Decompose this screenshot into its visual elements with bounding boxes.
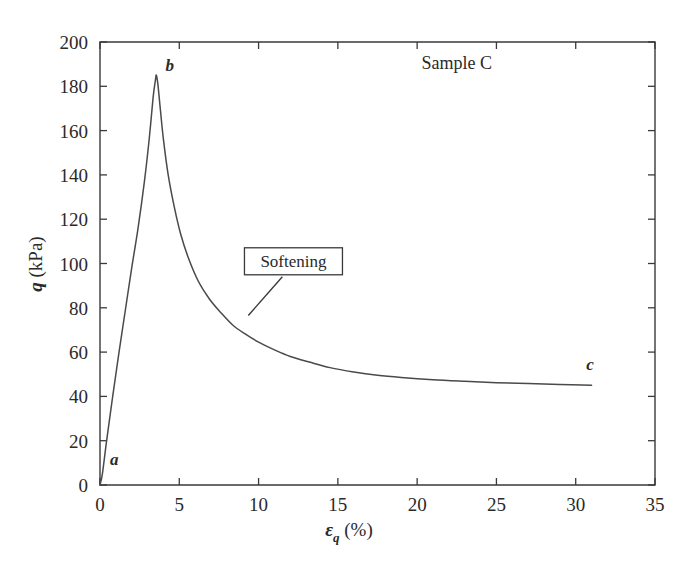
y-tick-label: 140 xyxy=(60,165,89,186)
y-tick-label: 20 xyxy=(69,431,88,452)
y-tick-label: 100 xyxy=(60,254,89,275)
y-tick-label: 160 xyxy=(60,121,89,142)
x-tick-label: 20 xyxy=(408,494,427,515)
x-axis-unit: (%) xyxy=(344,519,372,541)
y-axis-symbol: q xyxy=(25,282,46,292)
series-group xyxy=(100,75,592,485)
x-axis-symbol: ε xyxy=(325,519,333,540)
y-tick-label: 200 xyxy=(60,32,89,53)
x-axis-ticks xyxy=(100,42,655,485)
x-axis-title-text: εq (%) xyxy=(325,519,373,545)
x-tick-label: 35 xyxy=(646,494,665,515)
y-tick-label: 0 xyxy=(79,475,89,496)
sample-label: Sample C xyxy=(422,53,493,73)
y-axis-unit: (kPa) xyxy=(25,236,47,277)
x-tick-label: 25 xyxy=(487,494,506,515)
chart-svg: 05101520253035 0204060801001201401601802… xyxy=(0,0,699,568)
x-tick-label: 0 xyxy=(95,494,105,515)
axes-frame xyxy=(100,42,655,485)
y-axis-title: q (kPa) xyxy=(25,236,47,291)
x-tick-label: 10 xyxy=(249,494,268,515)
point-label-a: a xyxy=(110,450,119,469)
x-tick-label: 15 xyxy=(328,494,347,515)
softening-annotation: Softening xyxy=(244,248,342,275)
y-tick-label: 40 xyxy=(69,386,88,407)
softening-leader-line xyxy=(248,277,282,316)
y-tick-label: 120 xyxy=(60,209,89,230)
y-tick-label: 60 xyxy=(69,342,88,363)
y-axis-ticks xyxy=(100,42,655,485)
y-tick-label: 180 xyxy=(60,76,89,97)
curve-point-labels: abc xyxy=(110,56,594,469)
plot-frame xyxy=(100,42,655,485)
x-tick-label: 30 xyxy=(566,494,585,515)
softening-annotation-label: Softening xyxy=(260,252,327,271)
stress-strain-curve xyxy=(100,75,592,485)
point-label-c: c xyxy=(586,355,594,374)
x-tick-label: 5 xyxy=(175,494,185,515)
stress-strain-figure: 05101520253035 0204060801001201401601802… xyxy=(0,0,699,568)
x-axis-tick-labels: 05101520253035 xyxy=(95,494,664,515)
y-axis-tick-labels: 020406080100120140160180200 xyxy=(60,32,89,496)
point-label-b: b xyxy=(166,56,175,75)
x-axis-title: εq (%) xyxy=(325,519,373,545)
y-tick-label: 80 xyxy=(69,298,88,319)
y-axis-title-text: q (kPa) xyxy=(25,236,47,291)
